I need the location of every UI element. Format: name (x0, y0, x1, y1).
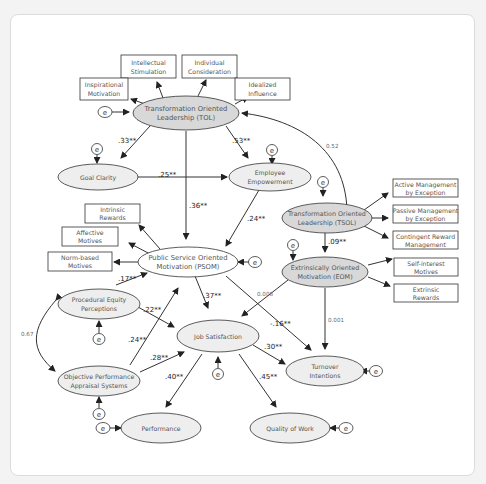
svg-text:Self-interest: Self-interest (407, 260, 445, 267)
svg-text:Leadership (TSOL): Leadership (TSOL) (298, 219, 357, 227)
svg-text:Goal Clarity: Goal Clarity (80, 174, 117, 182)
svg-text:Performance: Performance (141, 425, 180, 432)
node-goal-clarity: Goal Clarity (58, 164, 138, 190)
coef-pep-opas: 0.67 (21, 331, 34, 337)
indicator-intellectual-stimulation: Intellectual Stimulation (121, 55, 176, 78)
svg-text:Intrinsic: Intrinsic (100, 206, 125, 213)
svg-text:Active Management: Active Management (395, 181, 457, 189)
coef-psom-ti: -.16** (270, 320, 291, 328)
error-turnover: e (370, 366, 383, 377)
node-job-satisfaction: Job Satisfaction (177, 320, 259, 352)
indicator-intrinsic-rewards: Intrinsic Rewards (85, 204, 140, 223)
svg-text:Perceptions: Perceptions (81, 305, 117, 313)
indicator-individual-consideration: Individual Consideration (182, 55, 237, 78)
svg-text:Motivation (PSOM): Motivation (PSOM) (157, 263, 220, 271)
coef-js-ti: .30** (264, 343, 283, 351)
svg-text:Individual: Individual (194, 59, 224, 66)
svg-text:Extrinsically Oriented: Extrinsically Oriented (291, 264, 360, 272)
error-psom: e (249, 257, 262, 268)
node-performance: Performance (121, 413, 201, 443)
error-job-satisfaction: e (213, 369, 224, 380)
svg-text:Idealized: Idealized (249, 81, 277, 88)
svg-text:e: e (270, 147, 274, 155)
coef-eom-ti: 0.001 (328, 317, 344, 323)
svg-text:e: e (95, 146, 99, 154)
svg-text:Motives: Motives (414, 268, 438, 275)
indicator-norm-based-motives: Norm-based Motives (48, 252, 112, 271)
svg-text:Extrinsic: Extrinsic (413, 286, 440, 293)
svg-text:e: e (344, 425, 348, 433)
error-goal-clarity: e (92, 144, 103, 155)
indicator-contingent-reward: Contingent Reward Management (393, 231, 458, 249)
svg-text:Procedural Equity: Procedural Equity (72, 296, 127, 304)
svg-text:by Exception: by Exception (405, 189, 445, 197)
svg-text:Stimulation: Stimulation (131, 68, 166, 75)
svg-text:by Exception: by Exception (405, 215, 445, 223)
svg-text:e: e (321, 179, 325, 187)
svg-text:Empowerment: Empowerment (247, 178, 293, 186)
svg-text:Transformation Oriented: Transformation Oriented (144, 105, 228, 113)
node-quality-of-work: Quality of Work (250, 413, 330, 443)
node-tsol: Transformation Oriented Leadership (TSOL… (282, 203, 372, 233)
indicator-inspirational-motivation: Inspirational Motivation (80, 78, 128, 100)
coef-eom-js: 0.008 (257, 291, 273, 297)
svg-text:Norm-based: Norm-based (61, 254, 99, 261)
coef-js-perf: .40** (165, 373, 184, 381)
coef-pep-js: .22** (143, 306, 162, 314)
svg-text:e: e (103, 109, 107, 117)
error-procedural-equity: e (93, 334, 105, 345)
svg-text:Motives: Motives (78, 237, 102, 244)
node-psom: Public Service Oriented Motivation (PSOM… (138, 247, 238, 277)
svg-text:Job Satisfaction: Job Satisfaction (193, 333, 242, 341)
svg-text:e: e (97, 411, 101, 419)
coef-tol-ee: .53** (232, 137, 251, 145)
coef-psom-js: .37** (203, 292, 222, 300)
coef-js-qw: .45** (259, 373, 278, 381)
svg-text:e: e (216, 371, 220, 379)
indicator-passive-management: Passive Management by Exception (393, 205, 459, 223)
svg-text:Intellectual: Intellectual (131, 59, 166, 66)
node-employee-empowerment: Employee Empowerment (229, 163, 311, 191)
sem-diagram: Intellectual Stimulation Individual Cons… (0, 0, 486, 484)
error-quality-of-work: e (339, 423, 353, 434)
node-tol: Transformation Oriented Leadership (TOL) (133, 96, 239, 130)
svg-text:Affective: Affective (76, 229, 104, 236)
svg-text:Turnover: Turnover (311, 363, 339, 370)
coef-opas-js: .28** (150, 354, 169, 362)
svg-text:Management: Management (405, 241, 446, 249)
svg-text:Influence: Influence (248, 90, 277, 97)
error-performance: e (96, 423, 110, 434)
svg-text:Intentions: Intentions (310, 372, 341, 379)
svg-text:Appraisal Systems: Appraisal Systems (70, 382, 127, 390)
error-employee-empowerment: e (267, 145, 278, 156)
indicator-idealized-influence: Idealized Influence (235, 78, 290, 100)
error-tsol: e (318, 177, 329, 188)
svg-text:Motivation (EOM): Motivation (EOM) (297, 273, 352, 281)
svg-text:Passive Management: Passive Management (393, 207, 459, 215)
svg-text:Consideration: Consideration (188, 68, 231, 75)
svg-text:e: e (253, 259, 257, 267)
svg-text:Employee: Employee (255, 169, 286, 177)
indicator-affective-motives: Affective Motives (62, 227, 118, 246)
svg-text:Quality of Work: Quality of Work (266, 425, 314, 433)
error-eom: e (288, 240, 299, 251)
coef-gc-ee: .25** (158, 171, 177, 179)
svg-text:Transformation Oriented: Transformation Oriented (287, 210, 366, 218)
indicator-self-interest-motives: Self-interest Motives (394, 258, 458, 276)
svg-text:Motivation: Motivation (88, 90, 121, 97)
indicator-active-management: Active Management by Exception (393, 179, 458, 197)
coef-tsol-tol: 0.52 (326, 143, 338, 149)
coef-pep-psom: .17** (118, 275, 137, 283)
svg-text:e: e (291, 242, 295, 250)
node-procedural-equity: Procedural Equity Perceptions (58, 289, 140, 319)
svg-text:Rewards: Rewards (413, 294, 439, 301)
svg-text:Contingent Reward: Contingent Reward (396, 233, 455, 241)
node-turnover-intentions: Turnover Intentions (286, 356, 364, 386)
coef-opas-psom: .24** (128, 336, 147, 344)
svg-text:Public Service Oriented: Public Service Oriented (148, 254, 227, 262)
svg-text:e: e (97, 336, 101, 344)
error-opas: e (93, 409, 105, 420)
svg-text:Inspirational: Inspirational (85, 81, 124, 89)
svg-text:Rewards: Rewards (99, 214, 125, 221)
svg-text:e: e (101, 425, 105, 433)
